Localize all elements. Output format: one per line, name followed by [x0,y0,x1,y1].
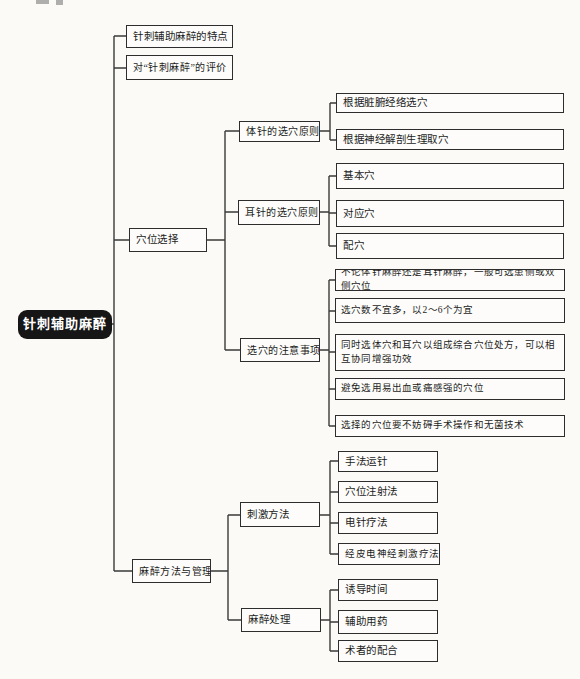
note-point-count: 选穴数不宜多，以2～6个为宜 [335,298,565,323]
node-characteristics: 针刺辅助麻醉的特点 [126,25,233,48]
node-nerve-anatomy-selection: 根据神经解剖生理取穴 [336,129,564,150]
node-auxiliary-medication: 辅助用药 [338,610,438,634]
node-selection-precautions: 选穴的注意事项 [240,338,320,362]
node-anesthesia-methods-management: 麻醉方法与管理 [132,559,211,583]
node-matching-points: 配穴 [336,233,564,259]
cropped-text-artifact [36,0,49,4]
node-manual-needling: 手法运针 [338,451,438,472]
note-avoid-bleeding-painful: 避免选用易出血或痛感强的穴位 [335,378,565,400]
node-point-injection: 穴位注射法 [338,481,438,503]
note-combined-prescription: 同时选体穴和耳穴以组成综合穴位处方，可以相互协同增强功效 [335,334,565,371]
node-surgeon-cooperation: 术者的配合 [338,640,438,662]
node-organ-meridian-selection: 根据脏腑经络选穴 [336,93,564,113]
note-no-interference-surgery: 选择的穴位要不妨碍手术操作和无菌技术 [335,415,565,437]
mindmap-canvas: 针刺辅助麻醉 针刺辅助麻醉的特点 对“针刺麻醉”的评价 穴位选择 麻醉方法与管理… [0,0,580,679]
node-transcutaneous-stimulation: 经皮电神经刺激疗法 [338,543,440,565]
node-electroacupuncture: 电针疗法 [338,512,438,534]
node-anesthesia-handling: 麻醉处理 [241,608,321,632]
cropped-text-artifact [56,0,63,5]
node-corresponding-points: 对应穴 [336,200,564,227]
node-acupoint-selection: 穴位选择 [129,228,207,252]
node-root-acupuncture-assisted-anesthesia: 针刺辅助麻醉 [18,310,112,339]
node-evaluation: 对“针刺麻醉”的评价 [126,55,233,80]
node-basic-points: 基本穴 [336,163,564,189]
node-ear-needle-principles: 耳针的选穴原则 [238,200,320,225]
node-induction-time: 诱导时间 [338,579,438,601]
note-laterality: 不论体针麻醉还是耳针麻醉，一般可选患侧或双侧穴位 [335,269,565,291]
node-body-needle-principles: 体针的选穴原则 [239,121,320,142]
node-stimulation-methods: 刺激方法 [240,502,320,527]
